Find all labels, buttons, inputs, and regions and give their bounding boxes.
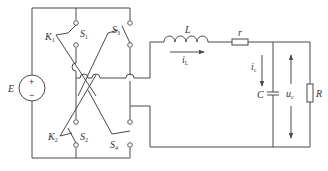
s3-label: S3: [112, 24, 120, 36]
inductor-label: L: [184, 24, 191, 35]
capacitor-c: [267, 42, 279, 147]
h-bridge-circuit-diagram: + − E S1 S2 S3 S4 K1 K2 L iL r C ic uc: [0, 0, 328, 171]
k1-label: K1: [44, 31, 55, 43]
series-resistor-r: [232, 39, 310, 147]
output-lower-wire: [130, 106, 310, 147]
output-voltage-label: uc: [286, 88, 294, 100]
s2-label: S2: [80, 131, 88, 143]
load-resistor-label: R: [315, 88, 322, 99]
plus-sign: +: [29, 77, 34, 87]
load-resistor-r: [307, 84, 313, 102]
inductor-current-label: iL: [182, 54, 189, 66]
switch-s3: [122, 21, 132, 48]
switch-s4: [118, 120, 132, 148]
inductor-l: [164, 36, 232, 42]
link-s4-diag: [88, 90, 118, 134]
s4-label: S4: [110, 139, 118, 151]
minus-sign: −: [29, 90, 34, 100]
s1-label: S1: [80, 28, 88, 40]
link-s3-diag: [78, 30, 118, 96]
capacitor-current-label: ic: [251, 61, 257, 73]
link-k2: [60, 75, 96, 136]
k2-label: K2: [47, 131, 58, 143]
capacitor-label: C: [257, 89, 264, 100]
source-label: E: [7, 83, 14, 94]
switch-s1: [68, 21, 78, 48]
series-resistor-label: r: [238, 27, 242, 38]
dc-source-e: + −: [19, 75, 45, 101]
